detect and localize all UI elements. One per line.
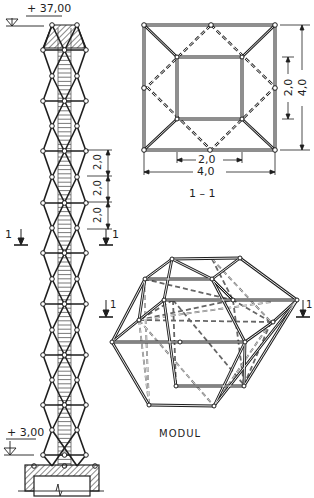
elevation-label-top: + 37,00 bbox=[27, 3, 71, 14]
section-marker-left bbox=[14, 229, 28, 245]
tower-elevation bbox=[32, 23, 98, 469]
module-axonometric bbox=[110, 256, 299, 408]
module-dim-label-3: 2,0 bbox=[93, 207, 103, 223]
drawing-canvas bbox=[0, 0, 314, 498]
plan-dim-inner-width: 2,0 bbox=[198, 154, 216, 165]
module-marker-left-label: 1 bbox=[110, 300, 116, 310]
section-label-right: 1 bbox=[112, 229, 119, 240]
plan-dim-outer-height: 4,0 bbox=[297, 79, 308, 97]
stair-core bbox=[58, 28, 71, 466]
module-marker-right-label: 1 bbox=[306, 300, 312, 310]
plan-title: 1 – 1 bbox=[189, 188, 216, 199]
top-platform bbox=[43, 25, 86, 48]
section-marker-right bbox=[99, 229, 113, 245]
module-title: MODUL bbox=[159, 429, 201, 439]
elevation-mark-bottom bbox=[4, 439, 36, 455]
plan-section bbox=[142, 23, 278, 153]
section-label-left: 1 bbox=[5, 229, 12, 240]
module-dim-label-2: 2,0 bbox=[93, 180, 103, 196]
plan-dim-outer-width: 4,0 bbox=[197, 166, 215, 177]
module-dim-label-1: 2,0 bbox=[93, 154, 103, 170]
elevation-label-bottom: + 3,00 bbox=[7, 427, 44, 438]
foundation bbox=[18, 465, 104, 496]
plan-dim-inner-height: 2,0 bbox=[283, 79, 294, 97]
